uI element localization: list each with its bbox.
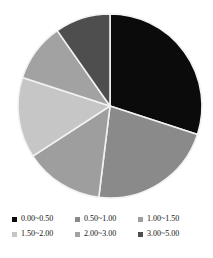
legend-item-label: 2.00~3.00	[84, 229, 116, 239]
legend-item-0[interactable]: 0.00~0.50	[12, 214, 75, 224]
legend-item-label: 1.50~2.00	[21, 229, 53, 239]
pie-slice-group	[18, 14, 202, 198]
pie-chart-figure: 0.00~0.50 0.50~1.00 1.00~1.50 1.50~2.00 …	[0, 0, 213, 258]
legend-item-2[interactable]: 1.00~1.50	[138, 214, 201, 224]
legend-item-3[interactable]: 1.50~2.00	[12, 229, 75, 239]
legend-item-label: 3.00~5.00	[147, 229, 179, 239]
legend-row: 0.00~0.50 0.50~1.00 1.00~1.50	[12, 212, 201, 226]
legend-item-label: 0.00~0.50	[21, 214, 53, 224]
legend-swatch-icon	[12, 232, 17, 237]
legend-swatch-icon	[12, 217, 17, 222]
legend-item-5[interactable]: 3.00~5.00	[138, 229, 201, 239]
pie-plot-area	[0, 0, 213, 205]
legend-row: 1.50~2.00 2.00~3.00 3.00~5.00	[12, 227, 201, 241]
chart-legend: 0.00~0.50 0.50~1.00 1.00~1.50 1.50~2.00 …	[0, 212, 213, 242]
legend-item-1[interactable]: 0.50~1.00	[75, 214, 138, 224]
legend-swatch-icon	[138, 217, 143, 222]
pie-svg	[0, 0, 213, 205]
legend-item-4[interactable]: 2.00~3.00	[75, 229, 138, 239]
legend-item-label: 0.50~1.00	[84, 214, 116, 224]
legend-item-label: 1.00~1.50	[147, 214, 179, 224]
legend-swatch-icon	[75, 232, 80, 237]
legend-swatch-icon	[75, 217, 80, 222]
legend-swatch-icon	[138, 232, 143, 237]
